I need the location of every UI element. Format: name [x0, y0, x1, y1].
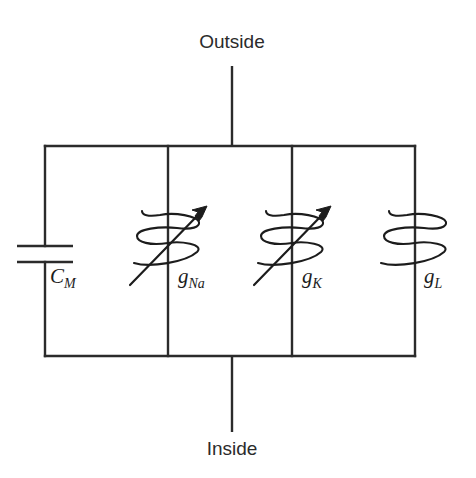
leak-label: gL — [424, 264, 443, 291]
capacitor-label: CM — [50, 264, 77, 291]
capacitor-label-base: C — [50, 264, 65, 288]
branch-potassium-conductance: gK — [254, 146, 331, 356]
sodium-label-subscript: Na — [188, 276, 205, 291]
leak-label-base: g — [424, 264, 435, 288]
potassium-label-subscript: K — [312, 276, 323, 291]
leak-label-subscript: L — [434, 276, 443, 291]
circuit-diagram: CM gNa gK — [0, 0, 476, 478]
branch-sodium-conductance: gNa — [130, 146, 207, 356]
potassium-resistor-coil — [258, 211, 323, 265]
circuit-canvas: CM gNa gK — [0, 0, 476, 478]
sodium-variable-arrow-shaft — [130, 213, 200, 285]
inside-terminal-label: Inside — [207, 438, 258, 459]
sodium-label: gNa — [178, 264, 205, 291]
potassium-variable-arrow-shaft — [254, 213, 324, 285]
capacitor-label-subscript: M — [63, 276, 77, 291]
potassium-label: gK — [302, 264, 323, 291]
leak-resistor-coil — [381, 211, 446, 265]
branch-membrane-capacitance: CM — [17, 146, 77, 356]
sodium-resistor-coil — [134, 211, 199, 265]
sodium-label-base: g — [178, 264, 189, 288]
potassium-label-base: g — [302, 264, 313, 288]
outside-terminal-label: Outside — [199, 31, 264, 52]
branch-leak-conductance: gL — [381, 146, 446, 356]
